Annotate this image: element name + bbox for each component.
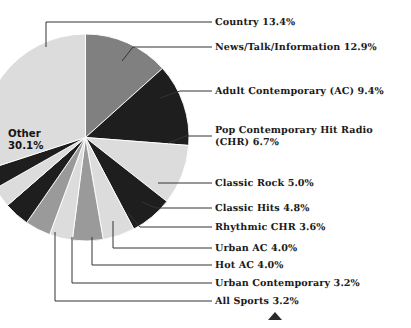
slice-label-adult-contemporary: Adult Contemporary (AC) 9.4%	[215, 86, 384, 98]
leader-line-all-sports	[55, 232, 212, 301]
slice-label-all-sports: All Sports 3.2%	[215, 296, 299, 308]
slice-label-pop-contemporary-hit-radio: Pop Contemporary Hit Radio (CHR) 6.7%	[215, 125, 373, 148]
slice-label-urban-contemporary: Urban Contemporary 3.2%	[215, 278, 360, 290]
slice-label-news-talk-information: News/Talk/Information 12.9%	[215, 42, 377, 54]
leader-line-hot-ac	[92, 237, 212, 265]
slice-label-rhythmic-chr: Rhythmic CHR 3.6%	[215, 222, 325, 234]
slice-label-classic-hits: Classic Hits 4.8%	[215, 203, 310, 215]
slice-label-urban-ac: Urban AC 4.0%	[215, 243, 297, 255]
slice-label-hot-ac: Hot AC 4.0%	[215, 260, 284, 272]
slice-label-country: Country 13.4%	[215, 17, 295, 29]
pie-chart-figure: Country 13.4% News/Talk/Information 12.9…	[0, 0, 411, 328]
slice-label-classic-rock: Classic Rock 5.0%	[215, 178, 314, 190]
triangle-marker-icon	[268, 312, 282, 320]
leader-line-urban-contemporary	[72, 237, 212, 283]
slice-label-other: Other 30.1%	[8, 128, 43, 153]
